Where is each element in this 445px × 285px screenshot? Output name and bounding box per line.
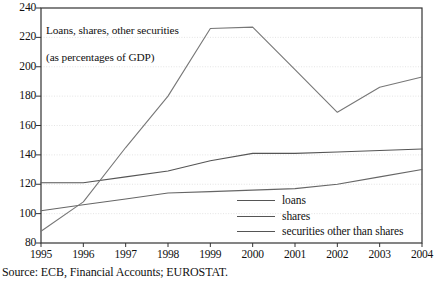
legend-item-loans: loans <box>237 193 403 209</box>
source-note: Source: ECB, Financial Accounts; EUROSTA… <box>2 265 228 279</box>
legend-item-shares: shares <box>237 209 403 225</box>
legend-label-loans: loans <box>282 193 306 209</box>
legend-swatch-icon-securities <box>237 231 275 232</box>
legend-label-shares: shares <box>282 209 310 225</box>
chart-title-line-2: (as percentages of GDP) <box>46 51 154 63</box>
chart-title: Loans, shares, other securities (as perc… <box>46 10 179 64</box>
chart-figure: 80100120140160180200220240 1995199619971… <box>0 0 445 285</box>
legend-label-securities: securities other than shares <box>282 224 403 240</box>
series-line-loans <box>41 149 422 183</box>
legend-swatch-icon-loans <box>237 200 275 201</box>
legend-item-securities-other-than-shares: securities other than shares <box>237 224 403 240</box>
chart-title-line-1: Loans, shares, other securities <box>46 24 179 36</box>
legend-swatch-icon-shares <box>237 216 275 217</box>
chart-legend: loans shares securities other than share… <box>237 193 403 240</box>
